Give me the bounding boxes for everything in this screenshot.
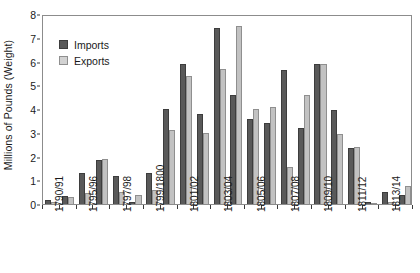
- bar-exports: [203, 133, 209, 204]
- x-axis-tick-mark: [345, 205, 346, 209]
- bar-exports: [337, 134, 343, 204]
- x-axis-tick-label: 1801/02: [177, 210, 194, 272]
- y-axis-title-text: Millions of Pounds (Weight): [2, 40, 14, 170]
- x-axis-tick-mark: [42, 205, 43, 209]
- x-axis-tick-label: 1809/10: [311, 210, 328, 272]
- y-axis-title: Millions of Pounds (Weight): [0, 0, 16, 210]
- y-axis-tick-mark: [37, 110, 40, 111]
- x-axis-tick-label: 1807/08: [277, 210, 294, 272]
- x-axis-tick-label: 1803/04: [210, 210, 227, 272]
- x-axis-tick-mark: [412, 205, 413, 209]
- y-axis-tick-label: 0: [30, 199, 36, 211]
- bar-exports: [135, 195, 141, 205]
- y-axis-tick-mark: [37, 62, 40, 63]
- y-axis-tick-label: 8: [30, 9, 36, 21]
- x-axis-tick-label: 1813/14: [378, 210, 395, 272]
- legend-label-exports: Exports: [74, 55, 110, 67]
- legend-item-imports: Imports: [59, 38, 110, 51]
- legend-swatch-exports-icon: [59, 56, 68, 65]
- x-axis-tick-mark: [109, 205, 110, 209]
- bar-chart: Millions of Pounds (Weight) 012345678 Im…: [0, 0, 420, 273]
- y-axis-tick-label: 2: [30, 152, 36, 164]
- bar-exports: [68, 197, 74, 204]
- bar-exports: [169, 130, 175, 204]
- y-axis-tick-mark: [37, 86, 40, 87]
- legend-swatch-imports-icon: [59, 40, 68, 49]
- legend-label-imports: Imports: [74, 39, 109, 51]
- y-axis-tick-mark: [37, 133, 40, 134]
- legend-item-exports: Exports: [59, 54, 110, 67]
- x-axis-tick-mark: [378, 205, 379, 209]
- bar-exports: [304, 95, 310, 204]
- bar-exports: [405, 186, 411, 204]
- chart-legend: Imports Exports: [59, 38, 110, 67]
- y-axis-tick-label: 7: [30, 33, 36, 45]
- y-axis-tick-label: 5: [30, 80, 36, 92]
- x-axis-tick-mark: [244, 205, 245, 209]
- bar-exports: [102, 159, 108, 204]
- x-axis-tick-labels: 1790/911795/961797/981799/18001801/02180…: [42, 210, 412, 273]
- x-axis-tick-label: 1805/06: [244, 210, 261, 272]
- y-axis-tick-label: 1: [30, 175, 36, 187]
- x-axis-tick-mark: [76, 205, 77, 209]
- y-axis-tick-labels: 012345678: [18, 0, 40, 215]
- x-axis-tick-mark: [210, 205, 211, 209]
- x-axis-tick-label: 1795/96: [76, 210, 93, 272]
- bar-exports: [236, 26, 242, 204]
- x-axis-tick-label: 1799/1800: [143, 210, 160, 272]
- y-axis-tick-mark: [37, 157, 40, 158]
- y-axis-tick-label: 3: [30, 128, 36, 140]
- y-axis-tick-label: 6: [30, 57, 36, 69]
- bar-exports: [371, 203, 377, 204]
- x-axis-tick-label: 1790/91: [42, 210, 59, 272]
- y-axis-tick-mark: [37, 15, 40, 16]
- x-axis-tick-mark: [311, 205, 312, 209]
- x-axis-tick-mark: [143, 205, 144, 209]
- y-axis-tick-label: 4: [30, 104, 36, 116]
- y-axis-tick-mark: [37, 205, 40, 206]
- x-axis-tick-label: 1811/12: [345, 210, 362, 272]
- y-axis-tick-mark: [37, 38, 40, 39]
- x-axis-tick-mark: [277, 205, 278, 209]
- y-axis-tick-mark: [37, 181, 40, 182]
- x-axis-tick-label: 1797/98: [109, 210, 126, 272]
- x-axis-tick-mark: [177, 205, 178, 209]
- bar-exports: [270, 107, 276, 204]
